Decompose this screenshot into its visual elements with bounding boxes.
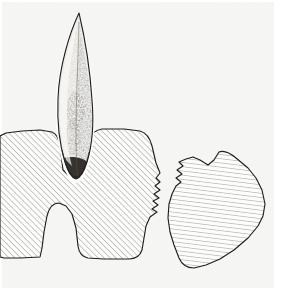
illustration-canvas <box>0 0 283 290</box>
figure-root <box>0 0 283 290</box>
